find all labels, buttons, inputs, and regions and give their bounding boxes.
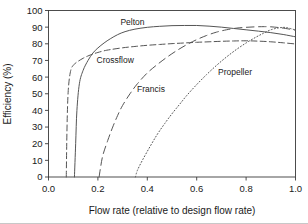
- x-tick-label-0.8: 0.8: [239, 183, 252, 194]
- plot-frame: [49, 11, 296, 178]
- series-label-pelton: Pelton: [120, 17, 144, 27]
- y-tick-label-70: 70: [32, 55, 43, 66]
- y-tick-label-50: 50: [32, 88, 43, 99]
- x-tick-label-0.0: 0.0: [42, 183, 55, 194]
- x-tick-label-1.0: 1.0: [289, 183, 302, 194]
- x-axis-tick-labels: 0.00.20.40.60.81.0: [42, 183, 302, 194]
- curve-pelton: [74, 25, 295, 177]
- efficiency-vs-flow-rate-chart: 0102030405060708090100 0.00.20.40.60.81.…: [0, 0, 308, 224]
- footer-divider: [0, 223, 308, 224]
- chart-figure: 0102030405060708090100 0.00.20.40.60.81.…: [0, 0, 308, 224]
- y-tick-label-40: 40: [32, 105, 43, 116]
- x-axis-title: Flow rate (relative to design flow rate): [89, 205, 256, 216]
- y-tick-label-60: 60: [32, 72, 43, 83]
- x-axis-ticks: [49, 177, 296, 181]
- series-label-francis: Francis: [137, 84, 165, 94]
- series-label-crossflow: Crossflow: [97, 55, 135, 65]
- series-label-propeller: Propeller: [218, 67, 252, 77]
- y-axis-ticks: [45, 11, 49, 178]
- y-tick-label-10: 10: [32, 155, 43, 166]
- curve-propeller: [135, 27, 295, 177]
- y-axis-title: Efficiency (%): [2, 64, 13, 125]
- x-tick-label-0.4: 0.4: [141, 183, 154, 194]
- plot-area-border: [49, 11, 296, 178]
- curve-francis: [99, 27, 295, 177]
- x-tick-label-0.2: 0.2: [91, 183, 104, 194]
- y-tick-label-80: 80: [32, 38, 43, 49]
- y-tick-label-20: 20: [32, 138, 43, 149]
- y-tick-label-0: 0: [37, 171, 42, 182]
- y-tick-label-90: 90: [32, 22, 43, 33]
- data-series-group: [66, 25, 295, 177]
- y-tick-label-100: 100: [27, 5, 43, 16]
- y-axis-tick-labels: 0102030405060708090100: [27, 5, 43, 183]
- y-tick-label-30: 30: [32, 121, 43, 132]
- x-tick-label-0.6: 0.6: [190, 183, 203, 194]
